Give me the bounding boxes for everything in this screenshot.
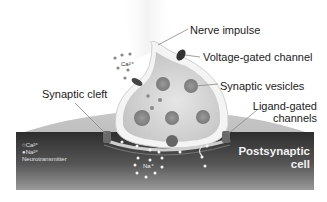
label-ligand-gated-line1: Ligand-gated	[253, 100, 317, 112]
legend-label-neurotransmitter: Neurotransmitter	[22, 156, 67, 162]
label-postsynaptic-cell: Postsynaptic cell	[238, 145, 310, 171]
legend-label-sodium: Na²⁺	[26, 149, 39, 155]
legend-item-calcium: ○Ca²⁺	[22, 142, 67, 149]
label-calcium-ion: Ca²⁺	[121, 60, 134, 67]
label-voltage-gated-channel: Voltage-gated channel	[203, 51, 312, 63]
label-synaptic-cleft: Synaptic cleft	[42, 88, 107, 100]
legend-label-calcium: Ca²⁺	[26, 142, 39, 148]
label-postsynaptic-line1: Postsynaptic	[238, 145, 310, 158]
legend-item-sodium: ●Na²⁺	[22, 149, 67, 156]
label-synaptic-vesicles: Synaptic vesicles	[220, 80, 304, 92]
label-sodium-ion: Na⁺	[143, 162, 154, 169]
label-ligand-gated-channels: Ligand-gated channels	[253, 100, 317, 124]
label-ligand-gated-line2: channels	[253, 112, 317, 124]
synapse-diagram: Nerve impulse Voltage-gated channel Syna…	[0, 0, 327, 202]
label-nerve-impulse: Nerve impulse	[190, 24, 260, 36]
legend-item-neurotransmitter: Neurotransmitter	[22, 156, 67, 163]
legend: ○Ca²⁺ ●Na²⁺ Neurotransmitter	[22, 142, 67, 163]
presynaptic-terminal	[123, 52, 220, 142]
label-postsynaptic-line2: cell	[238, 158, 310, 171]
